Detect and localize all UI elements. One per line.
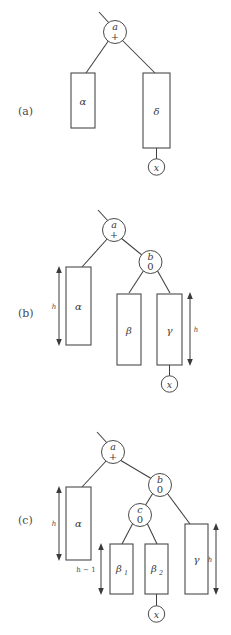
panel-c-subtree-alpha-label: α bbox=[75, 518, 82, 529]
panel-b-height-marker-alpha: h bbox=[52, 266, 62, 346]
panel-a-edge-a-delta bbox=[122, 40, 155, 73]
figure-container: (a) a + α δ x (b) a + bbox=[0, 0, 231, 635]
panel-b-edge-a-alpha bbox=[82, 238, 108, 267]
panel-c: (c) a + b 0 c 0 α bbox=[18, 432, 219, 622]
panel-b-subtree-alpha-label: α bbox=[75, 301, 82, 312]
avl-rebalance-figure: (a) a + α δ x (b) a + bbox=[0, 0, 231, 635]
panel-b-subtree-gamma-label: γ bbox=[167, 325, 173, 336]
panel-c-edge-a-b bbox=[120, 460, 152, 479]
panel-c-edge-b-c bbox=[145, 493, 153, 506]
panel-c-label: (c) bbox=[18, 514, 33, 527]
panel-a-label: (a) bbox=[18, 105, 33, 118]
panel-c-node-b-balance: 0 bbox=[157, 484, 163, 495]
panel-b-node-b-balance: 0 bbox=[147, 261, 153, 272]
panel-c-height-label-gamma: h bbox=[208, 556, 213, 564]
panel-b-node-a-balance: + bbox=[110, 229, 118, 240]
panel-c-subtree-beta2-label: β bbox=[150, 563, 157, 574]
panel-c-height-marker-gamma: h bbox=[208, 523, 219, 595]
panel-a-node-a-balance: + bbox=[111, 31, 119, 42]
panel-c-height-marker-alpha: h bbox=[52, 486, 62, 561]
panel-b-edge-a-b bbox=[121, 238, 143, 256]
panel-b-edge-b-beta bbox=[129, 270, 144, 293]
panel-b: (b) a + b 0 α h β γ bbox=[18, 210, 198, 392]
panel-c-node-c-balance: 0 bbox=[137, 514, 143, 525]
panel-a: (a) a + α δ x bbox=[18, 12, 170, 175]
panel-a-edge-a-alpha bbox=[86, 40, 109, 73]
panel-a-subtree-alpha-label: α bbox=[80, 96, 87, 107]
panel-c-subtree-beta2-index: 2 bbox=[158, 569, 163, 577]
panel-b-node-x-name: x bbox=[167, 379, 173, 390]
panel-b-height-label-alpha: h bbox=[52, 303, 57, 311]
panel-c-subtree-beta1-index: 1 bbox=[124, 569, 128, 577]
panel-b-height-label-gamma: h bbox=[194, 326, 199, 334]
panel-c-edge-c-beta1 bbox=[122, 523, 133, 544]
panel-c-node-x-name: x bbox=[154, 609, 160, 620]
panel-b-height-marker-gamma: h bbox=[187, 292, 198, 366]
panel-b-label: (b) bbox=[18, 307, 34, 320]
panel-c-subtree-gamma-label: γ bbox=[194, 554, 200, 565]
panel-c-height-label-beta1: h − 1 bbox=[76, 566, 95, 574]
panel-c-edge-b-gamma bbox=[167, 493, 190, 524]
panel-c-edge-a-alpha bbox=[82, 460, 107, 487]
panel-c-edge-c-beta2 bbox=[147, 523, 157, 544]
panel-b-edge-b-gamma bbox=[157, 270, 170, 293]
panel-c-height-label-alpha: h bbox=[52, 520, 57, 528]
panel-c-node-a-balance: + bbox=[109, 451, 117, 462]
panel-a-node-x-name: x bbox=[154, 162, 160, 173]
panel-c-subtree-beta1-label: β bbox=[115, 563, 122, 574]
panel-b-subtree-beta-label: β bbox=[125, 325, 132, 336]
panel-a-subtree-delta-label: δ bbox=[153, 106, 159, 117]
